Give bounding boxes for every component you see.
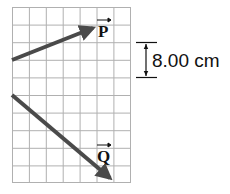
vector-q-label: Q [97, 148, 110, 165]
grid [12, 7, 131, 183]
vector-p-label: P [98, 23, 108, 40]
vector-p-arrow [12, 28, 93, 60]
scale-label: 8.00 cm [152, 51, 220, 70]
vector-diagram [0, 0, 230, 194]
